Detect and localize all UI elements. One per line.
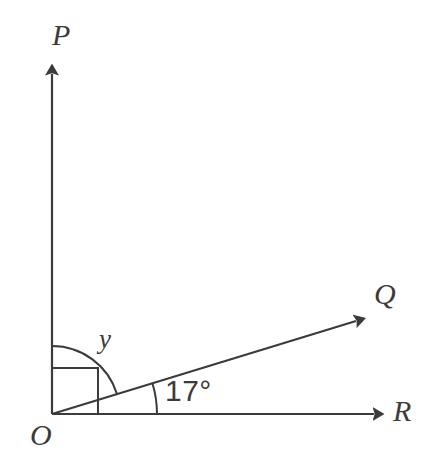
- vertex-label-q: Q: [374, 279, 396, 309]
- geometry-canvas: [0, 0, 434, 470]
- vertex-label-r: R: [393, 396, 411, 426]
- angle-label-y: y: [99, 326, 111, 353]
- angle-label-17-degrees: 17°: [165, 376, 212, 406]
- vertex-label-p: P: [52, 20, 70, 50]
- angle-arc-17: [152, 383, 157, 414]
- vertex-label-o: O: [30, 420, 52, 450]
- angle-diagram-figure: P Q R O y 17°: [0, 0, 434, 470]
